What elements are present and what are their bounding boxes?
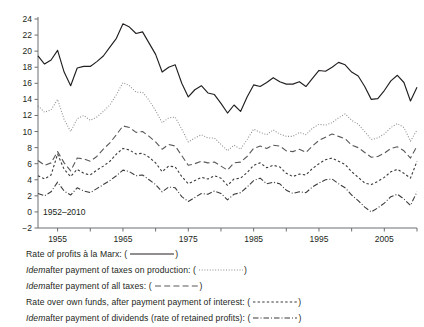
legend-italic-lead: Idem [26, 313, 45, 323]
axes-group [38, 17, 417, 228]
legend-item-label: after payment of taxes on production: ( [45, 265, 195, 275]
y-tick-label: 10 [23, 127, 33, 137]
legend-item-label: Rate of profits à la Marx: ( [26, 249, 127, 259]
series-line-3 [38, 148, 417, 185]
y-tick-label: −2 [22, 223, 32, 233]
y-tick-label: 2 [27, 191, 32, 201]
x-tick-label: 2005 [375, 234, 394, 244]
legend-item-rate-of-profits-marx: Rate of profits à la Marx: () [0, 246, 424, 262]
y-tick-label: 12 [23, 110, 33, 120]
x-tick-label: 1965 [113, 234, 132, 244]
legend-item-rate-over-own-funds: Rate over own funds, after payment payme… [0, 294, 424, 310]
legend-swatch-wrap [154, 281, 200, 291]
y-tick-label: 22 [23, 30, 33, 40]
legend-item-close: ) [298, 313, 301, 323]
legend-item-after-taxes-on-production: Idem after payment of taxes on productio… [0, 262, 424, 278]
legend-swatch-dashdot [252, 313, 298, 323]
legend-swatch-shortdash [252, 297, 298, 307]
x-tick-label: 1955 [48, 234, 67, 244]
chart-legend: Rate of profits à la Marx: ()Idem after … [0, 246, 424, 326]
y-tick-label: 18 [23, 62, 33, 72]
legend-italic-lead: Idem [26, 281, 45, 291]
legend-swatch-dotted [198, 265, 244, 275]
legend-item-after-all-taxes: Idem after payment of all taxes: () [0, 278, 424, 294]
legend-swatch-wrap [252, 297, 298, 307]
y-tick-label: 0 [27, 207, 32, 217]
legend-item-label: after payment of all taxes: ( [45, 281, 151, 291]
legend-swatch-solid [129, 249, 175, 259]
series-line-4 [38, 170, 417, 212]
legend-swatch-wrap [198, 265, 244, 275]
x-tick-label: 1995 [310, 234, 329, 244]
series-line-1 [38, 83, 417, 151]
chart-svg: −202468101214161820222419551965197519851… [0, 0, 424, 245]
y-tick-label: 20 [23, 46, 33, 56]
legend-item-close: ) [298, 297, 301, 307]
x-tick-label: 1975 [179, 234, 198, 244]
legend-item-close: ) [200, 281, 203, 291]
legend-item-label: Rate over own funds, after payment payme… [26, 297, 250, 307]
legend-item-close: ) [175, 249, 178, 259]
legend-italic-lead: Idem [26, 265, 45, 275]
y-tick-label: 4 [27, 175, 32, 185]
x-tick-label: 1985 [244, 234, 263, 244]
y-tick-label: 8 [27, 143, 32, 153]
chart-plot-area: −202468101214161820222419551965197519851… [0, 0, 424, 245]
chart-figure: −202468101214161820222419551965197519851… [0, 0, 424, 327]
legend-swatch-wrap [252, 313, 298, 323]
y-tick-label: 24 [23, 14, 33, 24]
y-tick-label: 6 [27, 159, 32, 169]
y-tick-label: 16 [23, 78, 33, 88]
legend-item-after-dividends-retained: Idem after payment of dividends (rate of… [0, 310, 424, 326]
series-group [38, 24, 417, 212]
range-annotation: 1952–2010 [43, 207, 86, 217]
legend-item-close: ) [244, 265, 247, 275]
legend-item-label: after payment of dividends (rate of reta… [45, 313, 250, 323]
series-line-0 [38, 24, 417, 113]
legend-swatch-longdash [154, 281, 200, 291]
series-line-2 [38, 126, 417, 171]
legend-swatch-wrap [129, 249, 175, 259]
y-tick-label: 14 [23, 94, 33, 104]
